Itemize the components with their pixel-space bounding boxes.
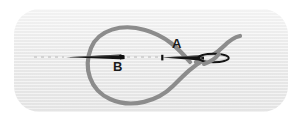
label-b: B (113, 60, 122, 73)
needle-thread-illustration (0, 0, 302, 122)
label-a: A (172, 37, 181, 50)
figure-canvas: A B (0, 0, 302, 122)
thread-loop (88, 27, 240, 103)
